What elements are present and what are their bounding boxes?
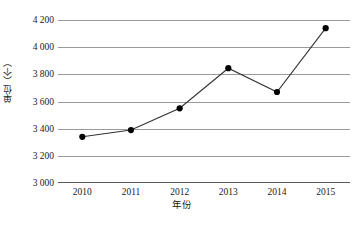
data-point-2010 [79,134,85,140]
y-tick-label-4200: 4 200 [33,15,54,25]
x-axis-tick-labels: 201020112012201320142015 [58,186,350,200]
y-tick-label-3600: 3 600 [33,97,54,107]
data-point-2012 [177,105,183,111]
x-tick-label-2014: 2014 [268,186,287,198]
x-tick-label-2012: 2012 [170,186,189,198]
x-tick-label-2015: 2015 [316,186,335,198]
x-tick-label-2010: 2010 [73,186,92,198]
y-tick-label-3200: 3 200 [33,151,54,161]
x-tick-label-2011: 2011 [122,186,141,198]
data-point-2013 [225,65,231,71]
y-tick-label-4000: 4 000 [33,42,54,52]
series-polyline [82,28,325,137]
data-point-2011 [128,127,134,133]
data-point-2014 [274,89,280,95]
x-tick-label-2013: 2013 [219,186,238,198]
plot-area [58,20,350,183]
x-axis-title: 年份 [0,200,363,211]
y-axis-tick-labels: 3 0003 2003 4003 6003 8004 0004 200 [0,0,58,229]
line-chart: 单位（个） 3 0003 2003 4003 6003 8004 0004 20… [0,0,363,229]
data-point-2015 [323,25,329,31]
y-tick-label-3800: 3 800 [33,69,54,79]
y-tick-label-3000: 3 000 [33,178,54,188]
y-tick-label-3400: 3 400 [33,124,54,134]
data-series-line [58,20,350,183]
